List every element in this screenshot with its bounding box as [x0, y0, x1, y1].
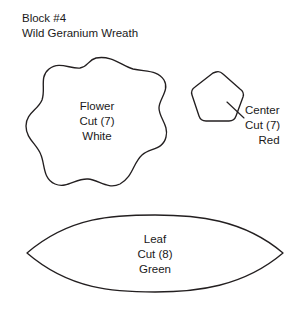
leaf-fabric-label: Green	[139, 263, 171, 275]
leaf-cut-label: Cut (8)	[137, 248, 172, 260]
center-cut-label: Cut (7)	[245, 119, 280, 131]
center-name-label: Center	[245, 104, 280, 116]
block-number-text: Block #4	[22, 12, 67, 24]
pattern-page: Block #4 Wild Geranium Wreath Flower Cut…	[0, 0, 306, 311]
flower-name-label: Flower	[80, 100, 115, 112]
flower-cut-label: Cut (7)	[79, 115, 114, 127]
block-name-text: Wild Geranium Wreath	[22, 27, 138, 39]
center-fabric-label: Red	[258, 134, 279, 146]
leaf-name-label: Leaf	[144, 233, 167, 245]
flower-fabric-label: White	[82, 130, 111, 142]
applique-pattern-canvas: Block #4 Wild Geranium Wreath Flower Cut…	[0, 0, 306, 311]
